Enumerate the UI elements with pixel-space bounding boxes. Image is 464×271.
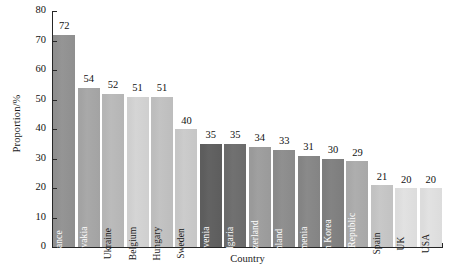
y-axis-tick-10: 10 xyxy=(20,212,46,223)
bar-value-label: 20 xyxy=(401,175,412,186)
bar-group: South Korea30 xyxy=(322,11,344,247)
bar-chart: Proportion/% 01020304050607080 France72S… xyxy=(0,0,464,271)
plot-area: France72Slovakia54Ukraine52Belgium51Hung… xyxy=(52,11,443,247)
y-axis-tick-30: 30 xyxy=(20,153,46,164)
bar-value-label: 54 xyxy=(83,74,94,85)
bar-value-label: 31 xyxy=(303,142,314,153)
bar-group: Czech Republic29 xyxy=(346,11,368,247)
bar-value-label: 52 xyxy=(108,80,119,91)
bar-value-label: 51 xyxy=(132,83,143,94)
bar-category-label: UK xyxy=(397,236,407,250)
bar-value-label: 30 xyxy=(328,145,339,156)
bar-group: Bulgaria35 xyxy=(224,11,246,247)
y-axis-tick-mark xyxy=(53,188,57,189)
y-axis-tick-mark xyxy=(53,100,57,101)
y-axis-tick-40: 40 xyxy=(20,123,46,134)
bar-group: Switzerland34 xyxy=(249,11,271,247)
bar-group: Armenia31 xyxy=(298,11,320,247)
bar-value-label: 35 xyxy=(206,130,217,141)
y-axis-tick-mark xyxy=(53,129,57,130)
bar-category-label: USA xyxy=(421,233,431,252)
bar-group: Finland33 xyxy=(273,11,295,247)
bar-group: Hungary51 xyxy=(151,11,173,247)
bar-group: Sweden40 xyxy=(175,11,197,247)
bar[interactable] xyxy=(78,88,100,247)
bar-value-label: 40 xyxy=(181,116,192,127)
bar-value-label: 51 xyxy=(157,83,168,94)
y-axis-tick-mark xyxy=(53,70,57,71)
bar-category-label: Spain xyxy=(372,232,382,254)
x-axis-label: Country xyxy=(52,253,443,264)
bar-group: USA20 xyxy=(420,11,442,247)
bar-value-label: 29 xyxy=(352,148,363,159)
bar[interactable] xyxy=(102,94,124,247)
bar-value-label: 21 xyxy=(377,172,388,183)
bar-group: Ukraine52 xyxy=(102,11,124,247)
y-axis-tick-mark xyxy=(53,159,57,160)
y-axis-tick-50: 50 xyxy=(20,94,46,105)
bar-value-label: 33 xyxy=(279,136,290,147)
y-axis-tick-mark xyxy=(53,11,57,12)
y-axis-tick-70: 70 xyxy=(20,35,46,46)
bar-group: UK20 xyxy=(395,11,417,247)
y-axis-tick-mark xyxy=(53,247,57,248)
y-axis-tick-mark xyxy=(53,218,57,219)
y-axis-tick-mark xyxy=(53,41,57,42)
bar[interactable] xyxy=(53,35,75,247)
bar-value-label: 20 xyxy=(426,175,437,186)
bar-group: Belgium51 xyxy=(127,11,149,247)
bar-group: Spain21 xyxy=(371,11,393,247)
y-axis-tick-80: 80 xyxy=(20,5,46,16)
bar-value-label: 72 xyxy=(59,21,70,32)
y-axis-tick-60: 60 xyxy=(20,64,46,75)
bar[interactable] xyxy=(127,97,149,247)
y-axis-tick-20: 20 xyxy=(20,182,46,193)
y-axis-tick-labels: 01020304050607080 xyxy=(14,0,46,271)
bar-value-label: 35 xyxy=(230,130,241,141)
bar-group: Slovakia54 xyxy=(78,11,100,247)
bar[interactable] xyxy=(151,97,173,247)
bar-group: Slovenia35 xyxy=(200,11,222,247)
y-axis-tick-0: 0 xyxy=(20,241,46,252)
bar-value-label: 34 xyxy=(254,133,265,144)
